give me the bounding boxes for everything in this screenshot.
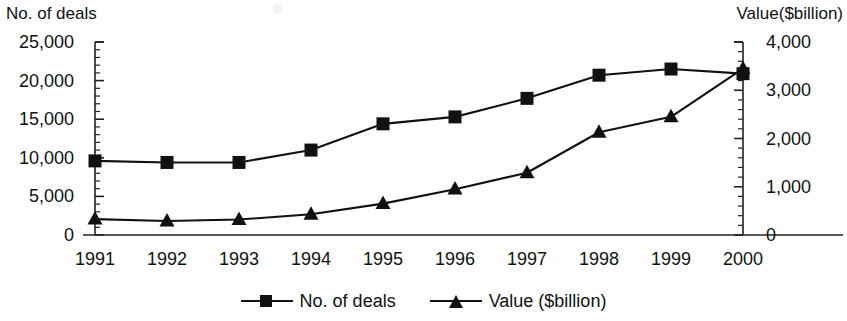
data-point-triangle — [160, 213, 175, 227]
series-line-value — [95, 69, 743, 221]
dual-axis-line-chart: No. of deals Value($billion) 05,00010,00… — [0, 0, 847, 321]
triangle-marker-icon — [449, 295, 463, 308]
data-point-square — [89, 154, 102, 167]
legend-line-swatch-deals — [241, 293, 293, 309]
data-point-square — [377, 117, 390, 130]
legend-label-value: Value ($billion) — [489, 292, 607, 310]
data-point-square — [449, 110, 462, 123]
legend-label-deals: No. of deals — [300, 292, 396, 310]
legend-item-value: Value ($billion) — [430, 292, 607, 310]
data-point-square — [593, 69, 606, 82]
data-point-square — [521, 92, 534, 105]
data-point-square — [161, 156, 174, 169]
data-point-square — [233, 156, 246, 169]
data-point-square — [665, 63, 678, 76]
square-marker-icon — [260, 295, 272, 307]
series-line-deals — [95, 69, 743, 162]
data-point-triangle — [520, 165, 535, 179]
data-point-triangle — [664, 109, 679, 123]
chart-legend: No. of deals Value ($billion) — [0, 292, 847, 310]
data-point-triangle — [88, 211, 103, 225]
plot-area — [0, 0, 847, 321]
legend-line-swatch-value — [430, 293, 482, 309]
data-point-square — [305, 144, 318, 157]
legend-item-deals: No. of deals — [241, 292, 396, 310]
